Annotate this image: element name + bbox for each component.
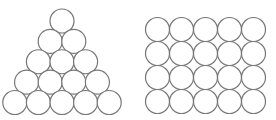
triangle-circle: [74, 91, 98, 115]
grid-circle: [194, 18, 218, 42]
triangle-circle: [50, 91, 74, 115]
grid-circle: [146, 18, 170, 42]
grid-circle: [242, 90, 266, 114]
grid-circle: [218, 42, 242, 66]
grid-circle: [146, 90, 170, 114]
grid-circle: [218, 90, 242, 114]
grid-circle: [242, 18, 266, 42]
triangle-circle: [26, 91, 50, 115]
grid-circle: [242, 42, 266, 66]
grid-circle: [170, 66, 194, 90]
grid-circle: [218, 66, 242, 90]
packing-diagram: [0, 0, 276, 120]
grid-circle: [194, 90, 218, 114]
grid-circle: [170, 42, 194, 66]
triangular-packing: [3, 9, 121, 115]
grid-circle: [170, 18, 194, 42]
triangle-circle: [97, 91, 121, 115]
square-grid-packing: [146, 18, 266, 114]
grid-circle: [146, 66, 170, 90]
grid-circle: [194, 66, 218, 90]
grid-circle: [218, 18, 242, 42]
grid-circle: [170, 90, 194, 114]
triangle-circle: [3, 91, 27, 115]
grid-circle: [242, 66, 266, 90]
grid-circle: [194, 42, 218, 66]
grid-circle: [146, 42, 170, 66]
